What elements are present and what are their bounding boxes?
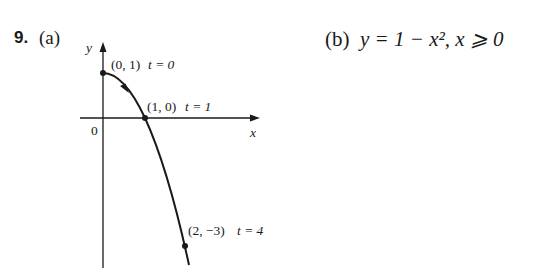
point-label-param: t = 0 — [148, 57, 175, 72]
point-label-coord: (0, 1) — [111, 57, 140, 72]
x-axis-label: x — [249, 125, 256, 140]
point-label-param: t = 1 — [185, 99, 211, 114]
point-label-param: t = 4 — [237, 223, 264, 238]
parametric-graph: y x 0 (0, 1) t = 0 (1, 0) t = 1 (2, −3) … — [0, 0, 546, 278]
y-axis-label: y — [84, 40, 92, 55]
point-label-coord: (1, 0) — [147, 99, 176, 114]
y-axis-arrow-icon — [100, 42, 107, 52]
point-1-0 — [142, 115, 148, 121]
point-2-neg3 — [182, 243, 188, 249]
origin-label: 0 — [91, 123, 98, 138]
x-axis-arrow-icon — [250, 115, 260, 122]
point-0-1 — [100, 70, 106, 76]
point-label-coord: (2, −3) — [188, 223, 225, 238]
